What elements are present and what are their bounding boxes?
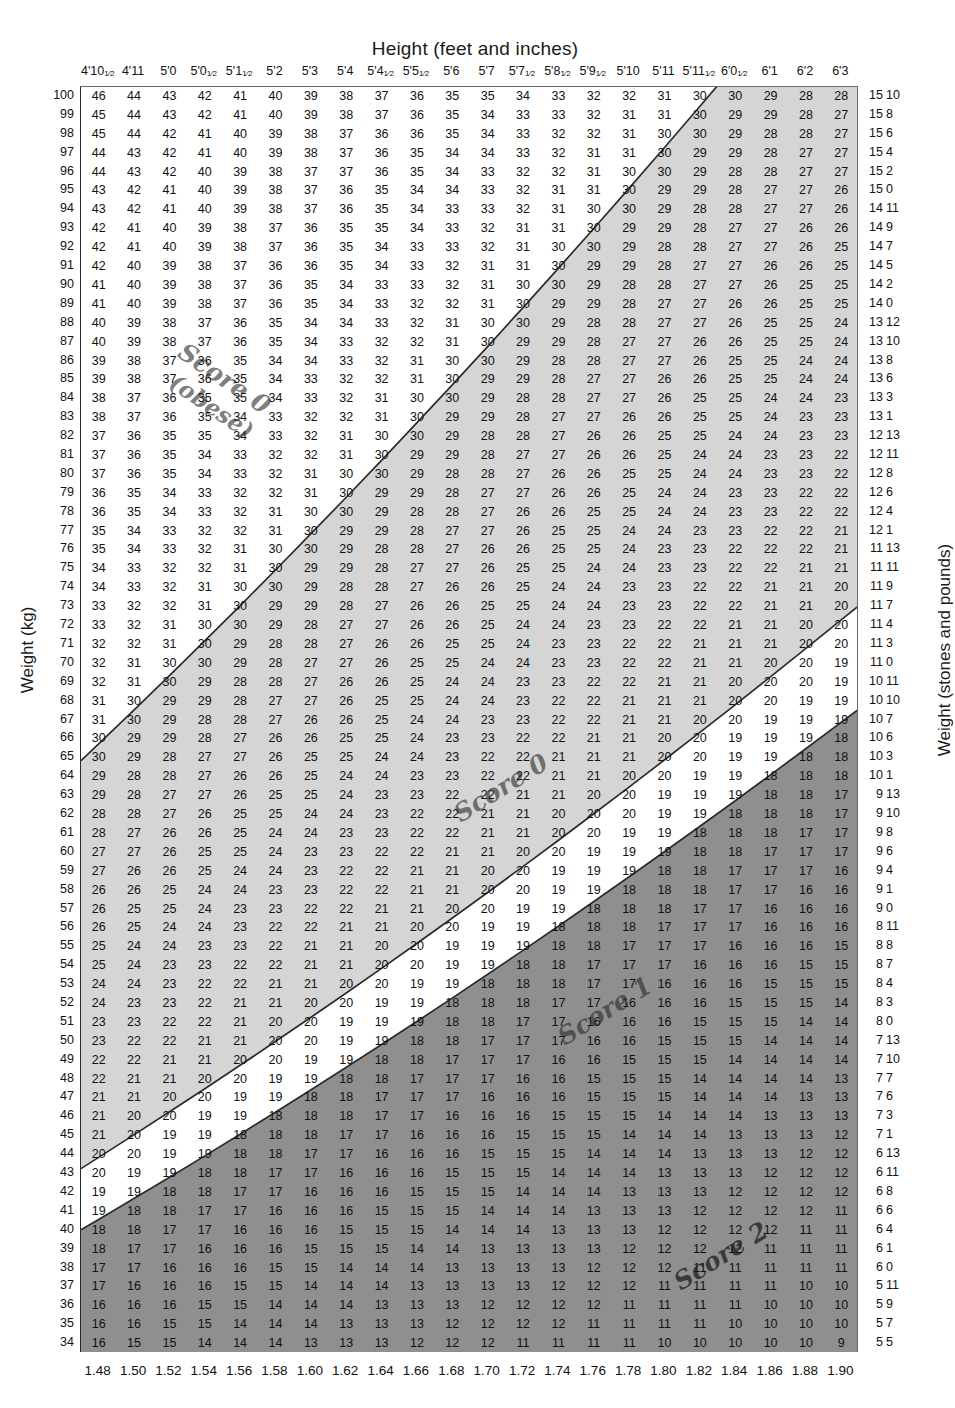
bmi-cell: 23 xyxy=(576,635,611,654)
bmi-cell: 25 xyxy=(753,333,788,352)
bmi-cell: 24 xyxy=(647,503,682,522)
bmi-cell: 32 xyxy=(576,125,611,144)
bmi-cell: 29 xyxy=(576,257,611,276)
row-label-weight-stones-pounds: 55 xyxy=(866,1333,906,1352)
bmi-cell: 18 xyxy=(788,767,823,786)
bmi-cell: 19 xyxy=(505,937,540,956)
bmi-cell: 43 xyxy=(116,144,151,163)
bmi-cell: 33 xyxy=(293,370,328,389)
bmi-cell: 19 xyxy=(81,1202,116,1221)
bmi-cell: 13 xyxy=(824,1107,858,1126)
bmi-cell: 24 xyxy=(364,767,399,786)
bmi-cell: 14 xyxy=(647,1126,682,1145)
bmi-cell: 19 xyxy=(611,862,646,881)
bmi-cell: 12 xyxy=(470,1296,505,1315)
bmi-cell: 29 xyxy=(364,484,399,503)
bmi-cell: 41 xyxy=(222,106,257,125)
bmi-cell: 32 xyxy=(435,295,470,314)
bmi-cell: 23 xyxy=(187,937,222,956)
bmi-cell: 11 xyxy=(647,1315,682,1334)
bmi-cell: 19 xyxy=(824,692,858,711)
bmi-cell: 21 xyxy=(435,862,470,881)
row-labels-kg: 1009998979695949392919089888786858483828… xyxy=(34,86,74,1352)
bmi-cell: 40 xyxy=(116,276,151,295)
bmi-cell: 21 xyxy=(222,1032,257,1051)
bmi-cell: 20 xyxy=(753,692,788,711)
bmi-cell: 28 xyxy=(399,503,434,522)
row-label-weight-stones-pounds: 1011 xyxy=(866,672,906,691)
row-label-weight-stones-pounds: 103 xyxy=(866,747,906,766)
bmi-cell: 44 xyxy=(81,163,116,182)
bmi-cell: 28 xyxy=(647,238,682,257)
bmi-cell: 38 xyxy=(258,200,293,219)
bmi-cell: 12 xyxy=(824,1145,858,1164)
bmi-cell: 30 xyxy=(541,276,576,295)
bmi-cell: 33 xyxy=(470,200,505,219)
bmi-cell: 33 xyxy=(81,597,116,616)
bmi-cell: 22 xyxy=(647,654,682,673)
bmi-cell: 25 xyxy=(435,635,470,654)
bmi-cell: 28 xyxy=(647,257,682,276)
bmi-cell: 22 xyxy=(435,824,470,843)
bmi-cell: 15 xyxy=(824,937,858,956)
bmi-cell: 27 xyxy=(435,522,470,541)
bmi-cell: 18 xyxy=(576,937,611,956)
bmi-cell: 12 xyxy=(611,1277,646,1296)
bmi-cell: 16 xyxy=(81,1334,116,1352)
bmi-cell: 10 xyxy=(753,1315,788,1334)
bmi-cell: 28 xyxy=(470,427,505,446)
bmi-cell: 30 xyxy=(364,427,399,446)
bmi-cell: 23 xyxy=(576,654,611,673)
bmi-cell: 34 xyxy=(116,540,151,559)
bmi-cell: 20 xyxy=(611,786,646,805)
bmi-cell: 13 xyxy=(682,1183,717,1202)
bmi-cell: 14 xyxy=(718,1051,753,1070)
bmi-cell: 24 xyxy=(293,824,328,843)
bmi-cell: 19 xyxy=(647,824,682,843)
bmi-cell: 20 xyxy=(576,786,611,805)
bmi-cell: 18 xyxy=(470,1013,505,1032)
bmi-cell: 10 xyxy=(788,1315,823,1334)
bmi-cell: 25 xyxy=(788,314,823,333)
bmi-cell: 29 xyxy=(329,540,364,559)
bmi-cell: 20 xyxy=(364,975,399,994)
bmi-cell: 25 xyxy=(718,352,753,371)
bmi-cell: 12 xyxy=(470,1334,505,1352)
bmi-cell: 21 xyxy=(576,767,611,786)
bmi-cell: 16 xyxy=(824,918,858,937)
bmi-cell: 19 xyxy=(753,729,788,748)
bmi-cell: 28 xyxy=(647,276,682,295)
bmi-cell: 30 xyxy=(611,181,646,200)
bmi-cell: 17 xyxy=(824,805,858,824)
bmi-cell: 35 xyxy=(152,446,187,465)
bmi-cell: 32 xyxy=(222,503,257,522)
bmi-cell: 13 xyxy=(364,1296,399,1315)
bmi-cell: 16 xyxy=(293,1202,328,1221)
row-label-weight-kg: 94 xyxy=(60,199,74,218)
bmi-cell: 19 xyxy=(187,1126,222,1145)
bmi-cell: 27 xyxy=(647,352,682,371)
bmi-cell: 25 xyxy=(116,918,151,937)
bmi-cell: 28 xyxy=(505,389,540,408)
bmi-cell: 20 xyxy=(541,843,576,862)
bmi-cell: 23 xyxy=(611,578,646,597)
bmi-cell: 18 xyxy=(576,900,611,919)
bmi-cell: 26 xyxy=(788,238,823,257)
bmi-cell: 29 xyxy=(329,522,364,541)
bmi-cell: 13 xyxy=(753,1145,788,1164)
bmi-cell: 32 xyxy=(611,87,646,106)
bmi-cell: 19 xyxy=(152,1126,187,1145)
bmi-cell: 18 xyxy=(152,1183,187,1202)
bmi-cell: 15 xyxy=(753,1013,788,1032)
bmi-cell: 16 xyxy=(187,1259,222,1278)
bmi-cell: 24 xyxy=(364,748,399,767)
bmi-cell: 21 xyxy=(258,975,293,994)
bmi-cell: 36 xyxy=(258,295,293,314)
bmi-cell: 31 xyxy=(505,238,540,257)
row-label-weight-stones-pounds: 136 xyxy=(866,369,906,388)
bmi-cell: 46 xyxy=(81,87,116,106)
bmi-cell: 18 xyxy=(152,1202,187,1221)
bmi-cell: 19 xyxy=(293,1051,328,1070)
bmi-cell: 17 xyxy=(682,900,717,919)
bmi-cell: 31 xyxy=(152,616,187,635)
